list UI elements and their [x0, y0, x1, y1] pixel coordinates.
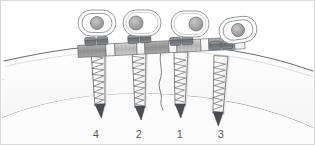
- plate-segment: [106, 44, 116, 56]
- screw-label-1: 1: [177, 128, 183, 140]
- head-view-4[interactable]: [78, 10, 116, 36]
- plate-segment: [200, 39, 209, 51]
- screw-label-4: 4: [93, 128, 99, 140]
- plate-segment: [137, 42, 146, 54]
- head-view-1-knob: [189, 17, 203, 31]
- head-view-1[interactable]: [171, 11, 209, 37]
- figure-container: 4 2 1 3: [0, 0, 315, 145]
- screw-label-2: 2: [136, 128, 142, 140]
- bone-structure: [2, 43, 313, 144]
- head-view-2[interactable]: [123, 10, 161, 36]
- bone-plate-fixation-illustration: 4 2 1 3: [0, 0, 315, 145]
- head-view-2-knob: [129, 16, 143, 30]
- screw-label-3: 3: [218, 128, 224, 140]
- head-view-4-knob: [91, 17, 104, 30]
